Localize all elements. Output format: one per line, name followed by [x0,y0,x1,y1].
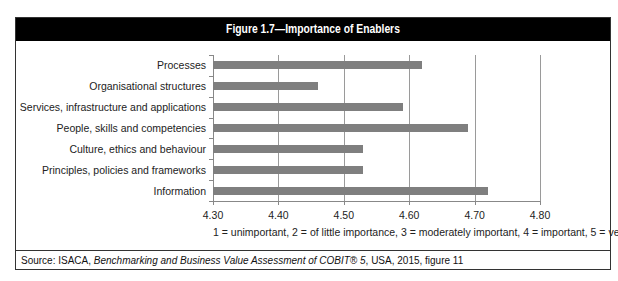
scale-note: 1 = unimportant, 2 = of little importanc… [213,226,540,238]
category-label: Organisational structures [89,80,206,92]
bar-chart: 4.304.404.504.604.704.80ProcessesOrganis… [0,0,618,281]
category-label: Culture, ethics and behaviour [69,143,206,155]
x-tick-label: 4.30 [193,209,233,221]
category-label: Processes [157,59,206,71]
x-tick-label: 4.70 [455,209,495,221]
x-tick-label: 4.80 [520,209,560,221]
category-label: People, skills and competencies [57,122,206,134]
y-tick-mark [209,118,213,119]
category-label: Principles, policies and frameworks [42,164,206,176]
bar [213,61,422,69]
y-tick-mark [209,55,213,56]
gridline [475,55,476,201]
bar [213,166,363,174]
bar [213,187,488,195]
bar [213,103,403,111]
y-tick-mark [209,97,213,98]
x-tick-label: 4.60 [389,209,429,221]
x-axis [213,201,540,202]
gridline [540,55,541,201]
category-label: Services, infrastructure and application… [20,101,206,113]
y-tick-mark [209,159,213,160]
y-tick-mark [209,201,213,202]
y-tick-mark [209,180,213,181]
y-tick-mark [209,76,213,77]
x-tick-label: 4.50 [324,209,364,221]
x-tick-mark [540,201,541,205]
category-label: Information [153,185,206,197]
bar [213,124,468,132]
y-tick-mark [209,138,213,139]
bar [213,145,363,153]
bar [213,82,318,90]
x-tick-label: 4.40 [258,209,298,221]
